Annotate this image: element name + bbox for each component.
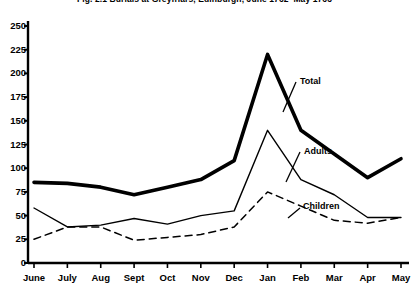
series-label-total: Total bbox=[300, 76, 321, 86]
series-line-adults bbox=[34, 130, 401, 227]
y-tick-label: 100 bbox=[0, 162, 26, 173]
series-line-children bbox=[34, 192, 401, 240]
y-tick-label: 150 bbox=[0, 115, 26, 126]
y-tick-label: 250 bbox=[0, 20, 26, 31]
y-tick-label: 25 bbox=[0, 233, 26, 244]
y-tick-label: 50 bbox=[0, 210, 26, 221]
y-tick-label: 125 bbox=[0, 139, 26, 150]
series-label-adults: Adults bbox=[304, 146, 332, 156]
y-tick-label: 75 bbox=[0, 186, 26, 197]
y-tick-label: 0 bbox=[0, 257, 26, 268]
x-tick-label: May bbox=[381, 272, 415, 283]
y-tick-label: 225 bbox=[0, 44, 26, 55]
series-line-total bbox=[34, 54, 401, 194]
y-tick-label: 200 bbox=[0, 67, 26, 78]
y-tick-label: 175 bbox=[0, 91, 26, 102]
series-label-children: Children bbox=[303, 201, 340, 211]
